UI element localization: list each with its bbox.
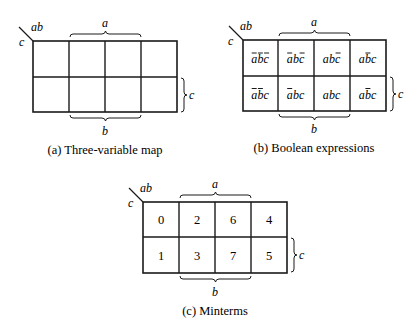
minterm-cell: 1: [158, 249, 164, 263]
expression-letter: a: [251, 52, 257, 66]
expression-letter: a: [287, 88, 293, 102]
map-c-right-brace-label: c: [299, 248, 305, 262]
boolean-expression-cell: abc: [359, 88, 377, 102]
boolean-expression-cell: abc: [287, 52, 305, 66]
expression-letter: b: [293, 52, 299, 66]
expression-letter: b: [365, 52, 371, 66]
map-a-bottom-brace: [70, 115, 141, 121]
map-b-corner-top-label: ab: [240, 19, 252, 33]
map-a-right-brace: [181, 78, 187, 112]
expression-letter: b: [329, 88, 335, 102]
expression-letter: c: [371, 52, 377, 66]
boolean-expression-cell: abc: [359, 52, 377, 66]
map-a-right-brace-label: c: [189, 88, 195, 102]
map-b-top-brace: [279, 30, 350, 36]
karnaugh-maps-figure: ab c a b c (a) Three-variable map ab c a…: [0, 0, 408, 320]
minterm-cell: 3: [194, 249, 200, 263]
map-a-caption: (a) Three-variable map: [48, 143, 163, 157]
map-b-right-brace: [390, 77, 396, 111]
minterm-cell: 5: [266, 249, 272, 263]
expression-letter: b: [257, 52, 263, 66]
expression-letter: b: [329, 52, 335, 66]
map-c-corner-left-label: c: [128, 196, 134, 210]
boolean-expression-cell: abc: [251, 52, 269, 66]
boolean-expression-cell: abc: [323, 52, 341, 66]
map-a: ab c a b c (a) Three-variable map: [19, 16, 195, 157]
expression-letter: c: [335, 52, 341, 66]
minterm-cell: 0: [158, 213, 164, 227]
map-c-top-brace-label: a: [212, 177, 218, 191]
map-b-bottom-brace: [279, 114, 350, 120]
map-c-corner-top-label: ab: [140, 181, 152, 195]
minterm-cell: 4: [266, 213, 273, 227]
map-b-top-brace-label: a: [311, 15, 317, 29]
expression-letter: c: [371, 88, 377, 102]
expression-letter: a: [287, 52, 293, 66]
expression-letter: c: [264, 52, 270, 66]
minterm-cell: 2: [194, 213, 200, 227]
expression-letter: a: [359, 88, 365, 102]
boolean-expression-cell: abc: [323, 88, 341, 102]
map-b-bottom-brace-label: b: [311, 122, 317, 136]
expression-letter: b: [293, 88, 299, 102]
map-a-top-brace: [70, 31, 141, 37]
map-a-corner-top-label: ab: [31, 20, 43, 34]
expression-letter: b: [257, 88, 263, 102]
map-c-top-brace: [180, 192, 251, 198]
map-b-right-brace-label: c: [398, 87, 404, 101]
expression-letter: a: [251, 88, 257, 102]
boolean-expression-cell: abc: [251, 88, 269, 102]
map-a-corner-left-label: c: [19, 35, 25, 49]
map-b-caption: (b) Boolean expressions: [254, 141, 375, 155]
map-b: ab c a b c abcabcabcabcabcabcabcabc (b) …: [228, 15, 404, 155]
minterm-cell: 7: [230, 249, 236, 263]
map-c-bottom-brace: [180, 276, 251, 282]
expression-letter: a: [323, 52, 329, 66]
expression-letter: a: [359, 52, 365, 66]
map-b-corner-left-label: c: [228, 34, 234, 48]
minterm-cell: 6: [230, 213, 236, 227]
map-a-bottom-brace-label: b: [102, 124, 108, 138]
map-c-bottom-brace-label: b: [212, 285, 218, 299]
map-c-right-brace: [291, 238, 297, 272]
map-c-caption: (c) Minterms: [182, 304, 248, 318]
expression-letter: c: [335, 88, 341, 102]
expression-letter: c: [299, 88, 305, 102]
expression-letter: c: [264, 88, 270, 102]
map-c: ab c a b c 02641375 (c) Minterms: [128, 177, 305, 318]
expression-letter: c: [299, 52, 305, 66]
expression-letter: a: [323, 88, 329, 102]
expression-letter: b: [365, 88, 371, 102]
map-a-top-brace-label: a: [102, 16, 108, 30]
boolean-expression-cell: abc: [287, 88, 305, 102]
